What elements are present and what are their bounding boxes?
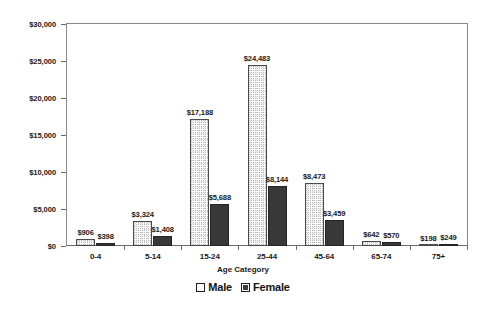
bar-male-0-4[interactable] — [76, 239, 95, 246]
bar-value-label: $249 — [440, 233, 456, 242]
bar-group — [410, 24, 467, 246]
x-tick-mark — [467, 246, 468, 250]
bar-value-label: $5,688 — [209, 193, 231, 202]
legend-swatch-male-icon — [196, 283, 205, 292]
x-category-label: 15-24 — [200, 252, 220, 261]
bar-female-0-4[interactable] — [96, 243, 115, 246]
x-category-label: 45-64 — [314, 252, 334, 261]
y-tick-label: $20,000 — [29, 94, 56, 103]
legend-item-male[interactable]: Male — [196, 281, 232, 293]
bar-value-label: $3,459 — [323, 209, 345, 218]
bar-value-label: $1,408 — [152, 225, 174, 234]
x-tick-mark — [296, 246, 297, 250]
legend-label-female: Female — [253, 281, 290, 293]
bar-female-75+[interactable] — [439, 244, 458, 246]
bar-group — [67, 24, 124, 246]
bar-value-label: $17,188 — [187, 108, 213, 117]
legend-item-female[interactable]: Female — [241, 281, 290, 293]
x-category-label: 5-14 — [145, 252, 161, 261]
y-axis: $0$5,000$10,000$15,000$20,000$25,000$30,… — [0, 23, 64, 247]
x-tick-mark — [124, 246, 125, 250]
bar-female-25-44[interactable] — [268, 186, 287, 246]
x-category-label: 75+ — [432, 252, 445, 261]
bar-male-15-24[interactable] — [190, 119, 209, 246]
bar-value-label: $642 — [363, 230, 379, 239]
y-tick-label: $0 — [48, 242, 56, 251]
bar-value-label: $906 — [77, 228, 93, 237]
bar-female-45-64[interactable] — [325, 220, 344, 246]
bar-value-label: $8,144 — [266, 175, 288, 184]
bar-female-5-14[interactable] — [153, 236, 172, 246]
bar-value-label: $24,483 — [244, 54, 270, 63]
bar-female-15-24[interactable] — [210, 204, 229, 246]
y-tick-label: $15,000 — [29, 131, 56, 140]
bar-male-65-74[interactable] — [362, 241, 381, 246]
bar-value-label: $198 — [420, 234, 436, 243]
x-tick-mark — [238, 246, 239, 250]
y-tick-label: $10,000 — [29, 168, 56, 177]
bar-male-45-64[interactable] — [305, 183, 324, 246]
bar-male-5-14[interactable] — [133, 221, 152, 246]
bar-male-25-44[interactable] — [248, 65, 267, 246]
bar-value-label: $8,473 — [303, 172, 325, 181]
bar-value-label: $570 — [383, 231, 399, 240]
chart-legend: Male Female — [0, 281, 486, 293]
x-axis-title: Age Category — [0, 265, 486, 274]
y-tick-label: $30,000 — [29, 20, 56, 29]
x-tick-mark — [410, 246, 411, 250]
bar-chart: $0$5,000$10,000$15,000$20,000$25,000$30,… — [0, 0, 486, 309]
bar-group — [353, 24, 410, 246]
y-tick-label: $5,000 — [33, 205, 56, 214]
x-tick-mark — [181, 246, 182, 250]
bar-female-65-74[interactable] — [382, 242, 401, 246]
y-tick-mark — [61, 246, 66, 247]
x-tick-mark — [353, 246, 354, 250]
x-category-label: 65-74 — [371, 252, 391, 261]
bars-layer: $906$398$3,324$1,408$17,188$5,688$24,483… — [67, 24, 467, 246]
legend-label-male: Male — [208, 281, 232, 293]
bar-value-label: $398 — [97, 232, 113, 241]
bar-male-75+[interactable] — [419, 244, 438, 246]
x-category-label: 25-44 — [257, 252, 277, 261]
legend-swatch-female-icon — [241, 283, 250, 292]
x-category-label: 0-4 — [90, 252, 101, 261]
bar-value-label: $3,324 — [132, 210, 154, 219]
y-tick-label: $25,000 — [29, 57, 56, 66]
